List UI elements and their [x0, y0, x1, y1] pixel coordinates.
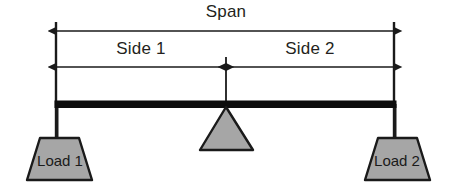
fulcrum-triangle [200, 107, 253, 150]
span-label: Span [176, 2, 276, 22]
side2-label: Side 2 [260, 39, 360, 59]
load2-label: Load 2 [364, 152, 430, 169]
diagram-canvas: Span Side 1 Side 2 Load 1 Load 2 [0, 0, 450, 193]
load1-label: Load 1 [27, 152, 93, 169]
side1-label: Side 1 [91, 39, 191, 59]
